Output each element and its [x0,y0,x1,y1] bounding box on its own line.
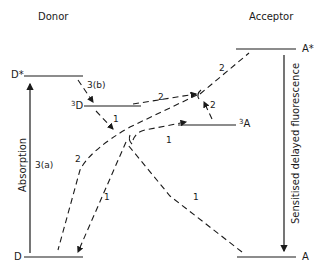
label-absorption: Absorption [17,138,28,192]
heading-acceptor: Acceptor [249,12,293,22]
energy-level-diagram [0,0,324,267]
label-a-ground: A [302,252,309,262]
label-path1-c: 1 [104,193,110,202]
label-d-star: D* [11,70,24,80]
label-path2-b: 2 [219,64,225,73]
label-d-ground: D [14,252,22,262]
label-path2-c: 2 [210,101,216,110]
label-path2-d: 2 [75,155,81,164]
path1-center-to-d [78,142,126,252]
path2-upper-to-d [58,95,197,250]
path2-d-to-upper [133,94,196,104]
label-3a: 3(a) [35,161,53,170]
label-path1-a: 1 [113,115,119,124]
path1-d-to-center [96,111,113,129]
label-d-triplet: 3D [71,101,83,111]
heading-donor: Donor [38,12,68,22]
label-path2-a: 2 [158,93,164,102]
path1-a-to-center [128,145,242,252]
path2-upper-to-a-star [200,53,249,94]
label-fluorescence: Sensitised delayed fluorescence [290,63,301,224]
label-a-star: A* [302,44,314,54]
label-path1-b: 1 [166,136,172,145]
label-path1-d: 1 [193,193,199,202]
label-3b: 3(b) [87,81,105,90]
label-a-triplet: 3A [239,119,250,129]
